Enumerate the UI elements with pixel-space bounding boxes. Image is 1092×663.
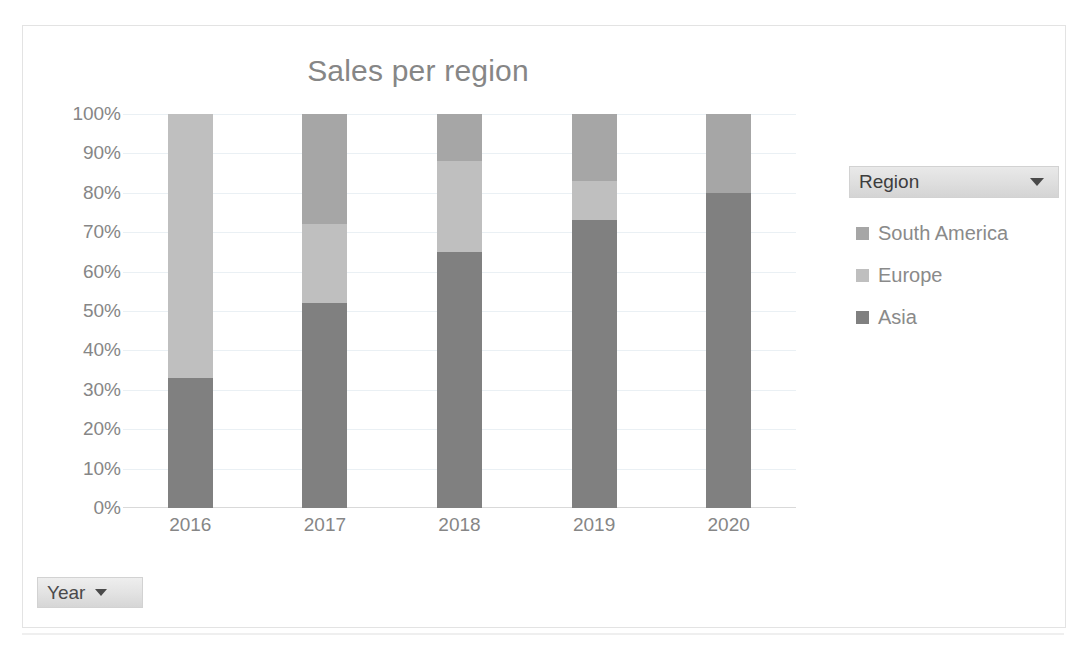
bar-segment-asia[interactable] [302,303,347,508]
bar-segment-asia[interactable] [437,252,482,508]
page-scan-edge [22,633,1064,635]
page-scan-bleed: · · · [0,0,1092,22]
legend-item[interactable]: Europe [849,254,1059,296]
page-bleed-text: · · · [150,0,178,6]
bar-segment-south-america[interactable] [437,114,482,161]
legend-swatch-icon [856,227,869,240]
bar-series-container [123,114,796,508]
bar-segment-asia[interactable] [572,220,617,508]
bar-segment-europe[interactable] [302,224,347,303]
legend: Region South AmericaEuropeAsia [849,166,1059,338]
stacked-bar[interactable] [302,114,347,508]
y-axis-tick-label: 60% [33,261,121,283]
y-axis-tick-label: 50% [33,300,121,322]
x-axis: 20162017201820192020 [123,514,796,548]
y-axis-tick-label: 90% [33,142,121,164]
legend-filter-label: Region [850,171,919,193]
y-axis-tick-label: 30% [33,379,121,401]
y-axis-tick-label: 100% [33,103,121,125]
bar-segment-south-america[interactable] [572,114,617,181]
y-axis-tick-label: 10% [33,458,121,480]
bar-segment-south-america[interactable] [706,114,751,193]
stacked-bar[interactable] [168,114,213,508]
x-axis-tick-label: 2018 [392,514,527,548]
bar-slot [258,114,393,508]
legend-item-label: Europe [878,264,943,287]
year-filter-button[interactable]: Year [37,577,143,608]
bar-slot [123,114,258,508]
y-axis: 0%10%20%30%40%50%60%70%80%90%100% [33,114,121,508]
legend-swatch-icon [856,269,869,282]
legend-item[interactable]: South America [849,212,1059,254]
stacked-bar[interactable] [437,114,482,508]
bar-segment-asia[interactable] [168,378,213,508]
legend-item[interactable]: Asia [849,296,1059,338]
y-axis-tick-label: 70% [33,221,121,243]
y-axis-tick-label: 80% [33,182,121,204]
stacked-bar[interactable] [572,114,617,508]
bar-segment-south-america[interactable] [302,114,347,224]
bar-slot [527,114,662,508]
bar-segment-europe[interactable] [168,114,213,378]
plot-area [123,114,796,508]
x-axis-tick-label: 2016 [123,514,258,548]
y-axis-tick-label: 40% [33,339,121,361]
x-axis-tick-label: 2020 [661,514,796,548]
bar-slot [392,114,527,508]
x-axis-tick-label: 2019 [527,514,662,548]
y-axis-tick-label: 0% [33,497,121,519]
pivot-chart-frame[interactable]: Sales per region 0%10%20%30%40%50%60%70%… [22,25,1066,628]
bar-slot [661,114,796,508]
year-filter-label: Year [47,582,85,604]
legend-items: South AmericaEuropeAsia [849,198,1059,338]
x-axis-tick-label: 2017 [258,514,393,548]
bar-segment-asia[interactable] [706,193,751,508]
bar-segment-europe[interactable] [437,161,482,252]
y-axis-tick-label: 20% [33,418,121,440]
chevron-down-icon[interactable] [95,589,107,596]
bar-segment-europe[interactable] [572,181,617,220]
legend-swatch-icon [856,311,869,324]
chevron-down-icon[interactable] [1030,178,1044,186]
stacked-bar[interactable] [706,114,751,508]
legend-filter-button[interactable]: Region [849,166,1059,198]
legend-item-label: Asia [878,306,917,329]
legend-item-label: South America [878,222,1008,245]
